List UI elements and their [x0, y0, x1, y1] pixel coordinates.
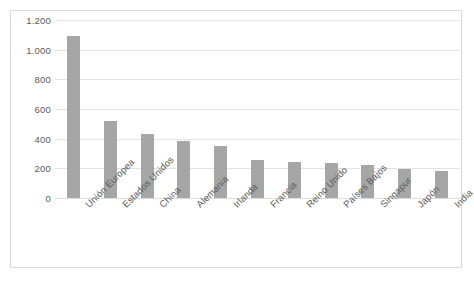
- x-axis-tick-label: China: [157, 202, 165, 210]
- x-axis-tick-label: Países Bajos: [341, 202, 349, 210]
- x-axis-tick-label: Alemania: [194, 202, 202, 210]
- x-axis-tick-label: India: [452, 202, 460, 210]
- y-axis-tick-label: 800: [11, 74, 51, 85]
- y-axis: 1.2001.0008006004002000: [11, 11, 51, 269]
- x-axis-tick-label: Reino Unido: [304, 202, 312, 210]
- y-axis-tick-label: 1.200: [11, 15, 51, 26]
- x-axis-tick-label: Irlanda: [231, 202, 239, 210]
- x-axis-tick-label: Francia: [268, 202, 276, 210]
- x-axis-tick-label: Japón: [415, 202, 423, 210]
- bar-slot: [386, 20, 423, 198]
- bar-slot: [276, 20, 313, 198]
- bar[interactable]: [67, 36, 80, 198]
- x-axis: Unión EuropeaEstados UnidosChinaAlemania…: [55, 200, 460, 266]
- x-axis-tick-label: Singapur: [378, 202, 386, 210]
- bar-slot: [239, 20, 276, 198]
- y-axis-tick-label: 200: [11, 163, 51, 174]
- y-axis-tick-label: 600: [11, 104, 51, 115]
- chart-plot-wrapper: 1.2001.0008006004002000 Unión EuropeaEst…: [11, 11, 463, 269]
- x-axis-tick-label: Unión Europea: [83, 202, 91, 210]
- x-axis-tick-label: Estados Unidos: [120, 202, 128, 210]
- chart-frame: 1.2001.0008006004002000 Unión EuropeaEst…: [10, 10, 462, 268]
- y-axis-tick-label: 1.000: [11, 44, 51, 55]
- bar-slot: [202, 20, 239, 198]
- bar-slot: [55, 20, 92, 198]
- y-axis-tick-label: 0: [11, 193, 51, 204]
- axis-baseline: [55, 198, 460, 199]
- y-axis-tick-label: 400: [11, 133, 51, 144]
- bar-slot: [165, 20, 202, 198]
- bar-slot: [423, 20, 460, 198]
